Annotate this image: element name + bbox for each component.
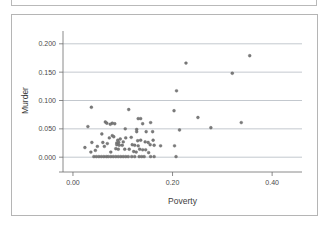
- y-axis-title: Murder: [20, 87, 30, 114]
- data-point: [117, 148, 120, 151]
- data-point: [130, 155, 133, 158]
- data-point: [133, 155, 136, 158]
- data-point: [139, 139, 142, 142]
- data-point: [101, 141, 104, 144]
- data-point: [240, 121, 243, 124]
- data-point: [144, 140, 147, 143]
- data-point: [137, 144, 140, 147]
- data-point: [139, 117, 142, 120]
- data-point: [112, 135, 115, 138]
- data-point: [109, 123, 112, 126]
- scatter-plot: 0.0000.0500.1000.1500.2000.000.200.40Pov…: [12, 15, 319, 217]
- data-point: [119, 138, 122, 141]
- data-point: [152, 139, 155, 142]
- y-tick-label: 0.000: [38, 154, 56, 161]
- data-point: [124, 136, 127, 139]
- data-point: [196, 116, 199, 119]
- data-point: [89, 151, 92, 154]
- data-point: [141, 122, 144, 125]
- data-point: [90, 106, 93, 109]
- data-point: [141, 148, 144, 151]
- data-point: [173, 144, 176, 147]
- data-point: [128, 148, 131, 151]
- y-tick-label: 0.100: [38, 97, 56, 104]
- data-point: [113, 122, 116, 125]
- x-axis-title: Poverty: [168, 196, 198, 206]
- data-point: [108, 136, 111, 139]
- data-point: [147, 151, 150, 154]
- data-point: [100, 133, 103, 136]
- data-point: [149, 143, 152, 146]
- data-point: [153, 155, 156, 158]
- data-point: [103, 145, 106, 148]
- screenshot-root: 0.0000.0500.1000.1500.2000.000.200.40Pov…: [0, 0, 331, 231]
- data-point: [106, 142, 109, 145]
- chart-panel: 0.0000.0500.1000.1500.2000.000.200.40Pov…: [11, 14, 318, 216]
- data-point: [153, 144, 156, 147]
- data-point: [124, 127, 127, 130]
- data-point: [145, 130, 148, 133]
- title-panel: [11, 0, 317, 6]
- data-point: [231, 72, 234, 75]
- x-tick-label: 0.40: [265, 179, 279, 186]
- data-point: [96, 145, 99, 148]
- data-point: [178, 129, 181, 132]
- data-point: [123, 148, 126, 151]
- data-point: [175, 155, 178, 158]
- x-tick-label: 0.00: [66, 179, 80, 186]
- data-point: [209, 126, 212, 129]
- data-point: [83, 146, 86, 149]
- data-point: [135, 151, 138, 154]
- data-point: [127, 108, 130, 111]
- data-point: [118, 144, 121, 147]
- data-point: [185, 62, 188, 65]
- data-point: [136, 139, 139, 142]
- data-point: [86, 125, 89, 128]
- y-tick-label: 0.150: [38, 69, 56, 76]
- data-point: [149, 121, 152, 124]
- data-point: [173, 109, 176, 112]
- data-point: [135, 130, 138, 133]
- data-point: [175, 89, 178, 92]
- y-tick-label: 0.200: [38, 40, 56, 47]
- data-point: [159, 144, 162, 147]
- data-point: [105, 122, 108, 125]
- data-point: [144, 148, 147, 151]
- data-point: [130, 136, 133, 139]
- x-tick-label: 0.20: [166, 179, 180, 186]
- scatter-plot-svg: 0.0000.0500.1000.1500.2000.000.200.40Pov…: [12, 15, 319, 217]
- data-point: [151, 130, 154, 133]
- y-tick-label: 0.050: [38, 125, 56, 132]
- data-point: [138, 148, 141, 151]
- data-point: [149, 155, 152, 158]
- data-point: [94, 149, 97, 152]
- data-point: [90, 141, 93, 144]
- data-point: [143, 155, 146, 158]
- data-point: [248, 54, 251, 57]
- data-point: [121, 144, 124, 147]
- data-point: [127, 155, 130, 158]
- data-point: [133, 144, 136, 147]
- data-point: [109, 151, 112, 154]
- data-point: [122, 140, 125, 143]
